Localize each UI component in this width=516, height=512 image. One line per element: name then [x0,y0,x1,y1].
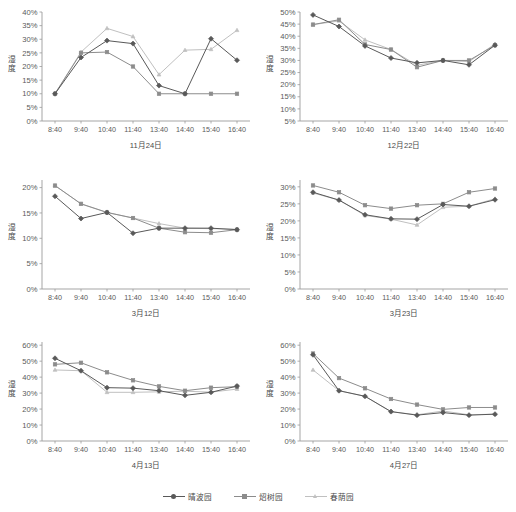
x-tick-label: 13:40 [408,125,426,134]
x-tick-label: 8:40 [306,293,320,302]
x-tick-label: 9:40 [332,293,346,302]
y-tick-label: 30% [22,35,37,44]
x-tick-label: 14:40 [176,125,194,134]
y-tick-label: 0% [27,117,38,126]
y-tick-label: 15% [22,76,37,85]
x-tick-label: 13:40 [408,445,426,454]
series-point-1 [157,92,160,95]
x-tick-label: 11:40 [124,445,141,454]
x-tick-label: 15:40 [460,293,478,302]
x-tick-label: 15:40 [202,445,220,454]
y-axis-title: 湿 [266,223,274,232]
chart-panel-3: 0%5%10%15%20%25%30%8:409:4010:4011:4013:… [258,168,516,333]
y-axis-title: 湿 [8,223,16,232]
series-line-1 [313,354,495,410]
x-tick-label: 11:40 [382,445,399,454]
x-tick-label: 11:40 [124,125,141,134]
x-axis-title: 4月27日 [390,461,419,470]
y-axis-title: 湿 [266,55,274,64]
y-tick-label: 5% [27,259,38,268]
y-tick-label: 20% [22,62,37,71]
y-tick-label: 10% [22,89,37,98]
y-tick-label: 45% [280,20,295,29]
series-point-1 [467,59,470,62]
series-point-1 [105,50,108,53]
y-tick-label: 40% [22,373,37,382]
humidity-charts-figure: 0%5%10%15%20%25%30%35%40%8:409:4010:4011… [0,0,516,512]
x-tick-label: 14:40 [434,293,452,302]
x-tick-label: 11:40 [382,125,399,134]
series-point-0 [131,386,136,391]
y-axis-title: 度 [266,63,274,73]
series-point-1 [79,51,82,54]
series-line-2 [313,193,495,225]
series-point-2 [183,48,187,51]
y-tick-label: 50% [280,8,295,17]
chart-legend: 晴波园 炤树园 春荫园 [0,486,516,506]
y-tick-label: 25% [280,200,295,209]
series-point-0 [131,41,136,46]
series-point-2 [105,26,109,29]
series-point-1 [53,184,56,187]
legend-marker-triangle-icon [305,492,327,500]
series-point-1 [467,191,470,194]
y-axis-title: 度 [266,231,274,241]
series-point-2 [131,35,135,38]
y-tick-label: 15% [22,209,37,218]
series-point-0 [337,198,342,203]
y-tick-label: 0% [285,285,296,294]
x-tick-label: 8:40 [48,125,62,134]
y-axis-title: 度 [8,63,16,73]
chart-plot-1: 5%10%15%20%25%30%35%40%45%50%8:409:4010:… [258,0,516,165]
y-tick-label: 15% [280,234,295,243]
series-line-1 [55,186,237,233]
series-point-1 [183,389,186,392]
chart-plot-2: 0%5%10%15%20%8:409:4010:4011:4013:4014:4… [0,168,258,333]
x-axis-title: 11月24日 [130,141,162,150]
legend-label-0: 晴波园 [188,491,212,502]
series-point-0 [363,394,368,399]
y-tick-label: 10% [280,251,295,260]
series-point-1 [363,204,366,207]
series-point-1 [493,406,496,409]
x-tick-label: 16:40 [486,445,504,454]
x-tick-label: 8:40 [306,445,320,454]
x-axis-title: 12月22日 [388,141,421,150]
y-tick-label: 0% [27,285,38,294]
y-tick-label: 25% [280,68,295,77]
x-tick-label: 15:40 [202,293,220,302]
y-tick-label: 35% [22,21,37,30]
series-line-0 [55,39,237,94]
x-tick-label: 16:40 [486,293,504,302]
series-point-0 [105,385,110,390]
y-tick-label: 40% [22,8,37,17]
x-tick-label: 8:40 [306,125,320,134]
series-point-1 [389,397,392,400]
series-point-1 [79,361,82,364]
x-tick-label: 13:40 [150,445,168,454]
y-axis-title: 湿 [8,55,16,64]
series-point-0 [53,356,58,361]
chart-panel-2: 0%5%10%15%20%8:409:4010:4011:4013:4014:4… [0,168,258,333]
y-tick-label: 35% [280,44,295,53]
x-tick-label: 8:40 [48,445,62,454]
y-tick-label: 40% [280,32,295,41]
series-point-1 [131,65,134,68]
chart-svg-3: 0%5%10%15%20%25%30%8:409:4010:4011:4013:… [258,168,516,333]
series-point-1 [209,92,212,95]
series-point-2 [157,222,161,225]
y-tick-label: 15% [280,92,295,101]
y-tick-label: 50% [22,357,37,366]
chart-svg-2: 0%5%10%15%20%8:409:4010:4011:4013:4014:4… [0,168,258,333]
y-tick-label: 40% [280,373,295,382]
series-point-1 [53,363,56,366]
chart-panel-1: 5%10%15%20%25%30%35%40%45%50%8:409:4010:… [258,0,516,165]
x-tick-label: 10:40 [356,445,374,454]
chart-svg-1: 5%10%15%20%25%30%35%40%45%50%8:409:4010:… [258,0,516,165]
series-point-0 [467,204,472,209]
series-point-1 [389,48,392,51]
series-point-0 [415,413,420,418]
y-tick-label: 20% [280,80,295,89]
x-tick-label: 14:40 [176,293,194,302]
x-tick-label: 9:40 [74,445,88,454]
